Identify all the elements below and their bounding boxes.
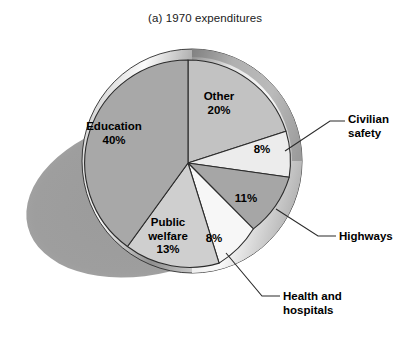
callout-label-highways: Highways: [339, 229, 409, 243]
callout-label-health-hospitals: Health and hospitals: [283, 289, 393, 317]
pie-chart-figure: (a) 1970 expenditures: [0, 0, 410, 339]
slice-label-education: Education 40%: [68, 120, 160, 147]
slice-value-civilian-safety: 8%: [243, 143, 281, 157]
slice-value-health-hospitals: 8%: [196, 232, 232, 246]
slice-label-public-welfare: Public welfare 13%: [137, 216, 199, 257]
slice-value-highways: 11%: [225, 192, 267, 206]
callout-label-civilian-safety: Civilian safety: [348, 112, 410, 140]
slice-label-other: Other 20%: [186, 90, 252, 117]
